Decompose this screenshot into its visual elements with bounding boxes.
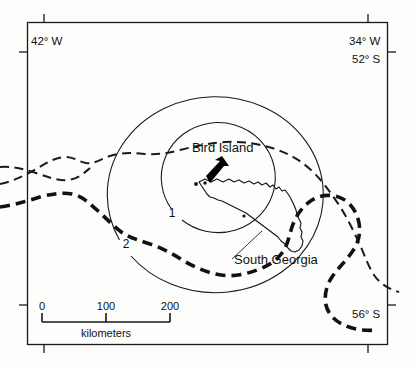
place-label-south-georgia: South Georgia [234,252,319,267]
scale-tick-100: 100 [97,300,115,312]
contour-label-2: 2 [123,237,130,251]
contour-line-1-west-branch [0,167,90,180]
scale-tick-200: 200 [161,300,179,312]
islet-outlying-rock [242,214,245,217]
coord-label-34w: 34° W [349,35,381,47]
coord-label-56s: 56° S [352,308,381,320]
scale-bar-line [42,313,170,322]
scale-bar-unit-label: kilometers [81,327,132,339]
map-canvas: 42° W 34° W 52° S 56° S Bird Island Sout… [0,0,415,370]
map-figure: 42° W 34° W 52° S 56° S Bird Island Sout… [0,0,415,370]
coord-label-52s: 52° S [352,53,381,65]
contour-label-1: 1 [169,206,176,220]
place-label-bird-island: Bird Island [192,140,253,155]
coord-label-42w: 42° W [31,35,63,47]
map-frame [28,23,388,345]
islet-bird-island [194,182,198,186]
islet-secondary [203,181,206,184]
scale-tick-0: 0 [39,300,45,312]
